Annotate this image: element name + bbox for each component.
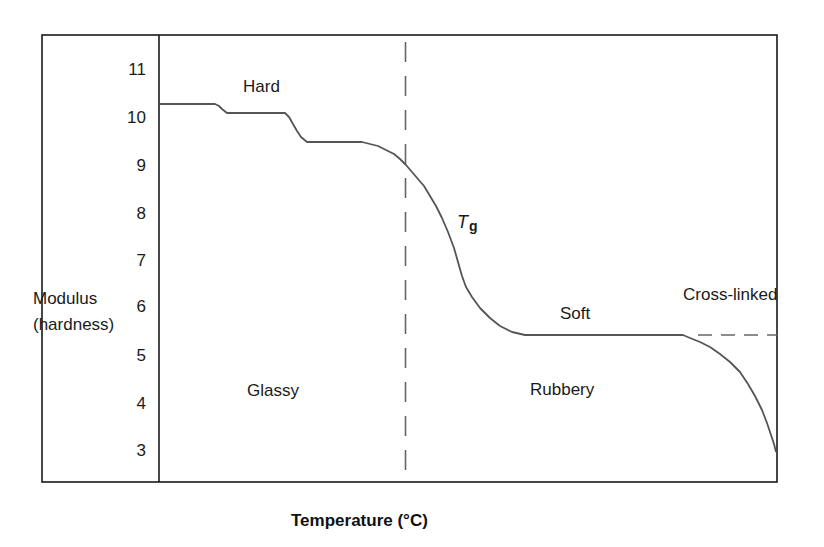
y-tick-7: 7 [137,251,146,270]
hard-label: Hard [243,77,280,96]
rubbery-label: Rubbery [530,380,595,399]
y-tick-4: 4 [137,394,146,413]
chart-frame [42,35,777,482]
y-tick-6: 6 [137,297,146,316]
tg-label: Tg [457,212,478,234]
cross-linked-label: Cross-linked [683,285,777,304]
modulus-temperature-chart: 11 10 9 8 7 6 5 4 3 Modulus (hardness) H… [0,0,824,547]
y-tick-11: 11 [128,60,146,79]
soft-label: Soft [560,304,591,323]
y-tick-3: 3 [137,441,146,460]
y-tick-5: 5 [137,346,146,365]
y-axis-label-line1: Modulus [33,289,97,308]
y-tick-labels: 11 10 9 8 7 6 5 4 3 [127,60,146,460]
y-axis-label-line2: (hardness) [33,315,114,334]
tg-label-subscript: g [469,218,478,234]
glassy-label: Glassy [247,381,299,400]
y-tick-10: 10 [127,108,146,127]
x-axis-label: Temperature (°C) [291,511,428,530]
y-tick-8: 8 [137,204,146,223]
y-tick-9: 9 [137,156,146,175]
